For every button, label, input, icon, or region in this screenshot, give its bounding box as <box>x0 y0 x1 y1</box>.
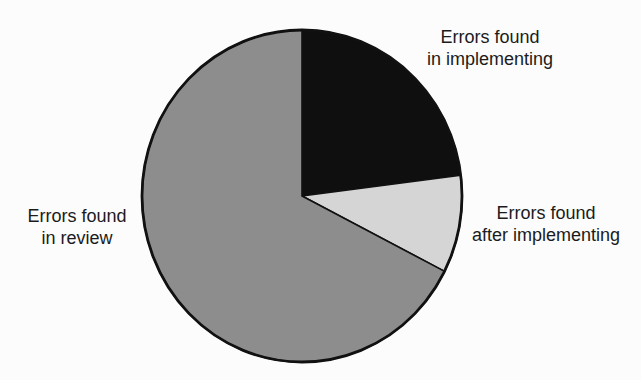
slice-label-line: in review <box>41 228 112 248</box>
slice-label-errors-found-in-implementing: Errors found in implementing <box>427 26 553 70</box>
slice-label-line: after implementing <box>472 225 620 245</box>
slice-label-errors-found-in-review: Errors found in review <box>27 205 126 249</box>
pie-chart-figure: Errors found in implementing Errors foun… <box>0 0 641 380</box>
slice-label-errors-found-after-implementing: Errors found after implementing <box>472 202 620 246</box>
slice-label-line: in implementing <box>427 49 553 69</box>
slice-label-line: Errors found <box>496 203 595 223</box>
slice-label-line: Errors found <box>27 206 126 226</box>
slice-label-line: Errors found <box>440 27 539 47</box>
